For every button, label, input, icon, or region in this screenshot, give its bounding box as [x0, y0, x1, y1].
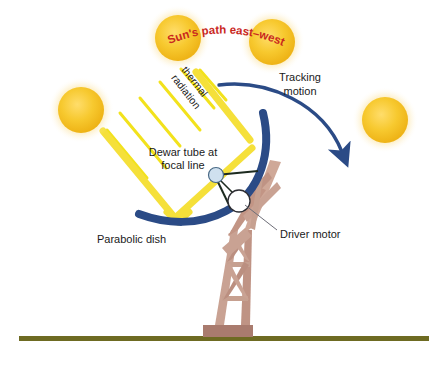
sun-right-disc — [362, 97, 408, 143]
tracking-motion-label: Tracking motion — [279, 71, 321, 97]
tracking-arrow-path — [219, 84, 342, 152]
driver-motor — [228, 190, 250, 212]
tracking-motion-line-1: Tracking — [279, 71, 321, 83]
dewar-tube — [209, 168, 224, 183]
dewar-tube-line-2: focal line — [161, 159, 204, 171]
diagram-canvas: Sun's path east–west thermal radiation T… — [0, 0, 445, 366]
incident-beam-outer — [103, 131, 175, 218]
tracking-motion-arrow — [219, 84, 342, 152]
driver-motor-label: Driver motor — [280, 228, 341, 240]
tower-base-plate — [203, 325, 253, 337]
sun-right — [352, 87, 418, 153]
tracking-motion-line-2: motion — [283, 85, 316, 97]
tower-leg-right — [241, 230, 252, 325]
parabolic-dish-label: Parabolic dish — [97, 233, 166, 245]
sun-left — [48, 77, 114, 143]
thermal-radiation-label: thermal radiation — [169, 64, 214, 111]
sun-left-disc — [58, 87, 104, 133]
solar-ray-3 — [140, 98, 180, 146]
solar-collector-diagram: Sun's path east–west thermal radiation T… — [0, 0, 445, 366]
dewar-tube-line-1: Dewar tube at — [149, 146, 217, 158]
